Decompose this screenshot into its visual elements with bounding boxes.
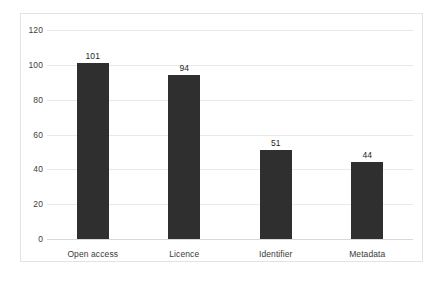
x-axis-tick: Identifier [230, 243, 322, 261]
y-axis-tick-label: 20 [9, 200, 43, 209]
y-axis-tick-label: 80 [9, 96, 43, 105]
x-axis-tick-label: Identifier [259, 249, 293, 259]
bar-group: 51 [230, 30, 322, 239]
y-axis-tick-label: 100 [9, 61, 43, 70]
x-axis-tick: Open access [47, 243, 139, 261]
y-axis-tick-label: 60 [9, 131, 43, 140]
y-axis-tick-label: 40 [9, 165, 43, 174]
bar-value-label: 51 [271, 139, 281, 148]
x-axis-tick-label: Licence [169, 249, 199, 259]
x-axis: Open accessLicenceIdentifierMetadata [47, 243, 413, 261]
x-axis-tick: Licence [139, 243, 231, 261]
plot-area: 101945144 [47, 30, 413, 239]
y-axis: 020406080100120 [5, 30, 43, 239]
y-axis-tick-label: 0 [9, 235, 43, 244]
axis-baseline [47, 239, 413, 240]
bar[interactable] [351, 162, 383, 239]
bar-value-label: 101 [86, 52, 100, 61]
bar[interactable] [77, 63, 109, 239]
x-axis-tick-label: Metadata [349, 249, 385, 259]
bar-group: 94 [139, 30, 231, 239]
bar-value-label: 44 [362, 151, 372, 160]
bar-chart: 020406080100120 101945144 Open accessLic… [0, 0, 442, 282]
bar-group: 101 [47, 30, 139, 239]
bar-group: 44 [322, 30, 414, 239]
bar[interactable] [260, 150, 292, 239]
x-axis-tick: Metadata [322, 243, 414, 261]
bar-value-label: 94 [179, 64, 189, 73]
x-axis-tick-label: Open access [67, 249, 118, 259]
y-axis-tick-label: 120 [9, 26, 43, 35]
bar[interactable] [168, 75, 200, 239]
